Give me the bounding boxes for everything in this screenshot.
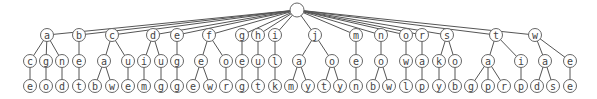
node-label: g (43, 56, 49, 67)
node-label: w (207, 81, 214, 92)
node-label: a (542, 56, 548, 67)
tree-node: t (252, 80, 265, 93)
tree-root-node (290, 3, 304, 17)
tree-node: j (309, 29, 322, 42)
tree-node: r (416, 29, 429, 42)
node-label: a (44, 30, 50, 41)
node-label: e (239, 56, 245, 67)
tree-node: g (155, 80, 168, 93)
node-label: y (436, 81, 442, 92)
tree-node: d (56, 80, 69, 93)
node-label: y (305, 81, 311, 92)
tree-node: e (171, 29, 184, 42)
tree-node: w (400, 55, 413, 68)
tree-node: e (122, 80, 135, 93)
tree-node: o (375, 55, 388, 68)
node-label: e (190, 81, 196, 92)
tree-node: h (252, 29, 265, 42)
tree-node: g (465, 80, 478, 93)
tree-node: g (171, 55, 184, 68)
node-label: g (158, 81, 164, 92)
node-label: k (436, 56, 442, 67)
node-label: a (101, 56, 107, 67)
node-label: a (485, 56, 491, 67)
tree-node: a (98, 55, 111, 68)
tree-node: n (350, 80, 363, 93)
tree-node: g (40, 55, 53, 68)
node-label: i (518, 56, 524, 67)
tree-node: u (252, 55, 265, 68)
tree-node: o (40, 80, 53, 93)
node-label: t (255, 81, 261, 92)
node-label: o (223, 56, 229, 67)
tree-node: e (195, 55, 208, 68)
tree-node: e (73, 55, 86, 68)
node-label: w (532, 30, 539, 41)
tree-node: p (515, 80, 528, 93)
node-label: e (353, 56, 359, 67)
tree-node: t (490, 29, 503, 42)
tree-node: d (531, 80, 544, 93)
node-label: o (329, 56, 335, 67)
tree-node: r (498, 80, 511, 93)
node-label: w (403, 56, 410, 67)
node-label: c (27, 56, 33, 67)
tree-node: i (269, 29, 282, 42)
node-label: l (403, 81, 409, 92)
node-label: t (321, 81, 327, 92)
tree-node: o (220, 55, 233, 68)
tree-node: o (449, 55, 462, 68)
node-label: e (567, 81, 573, 92)
node-label: m (353, 30, 359, 41)
tree-node: w (529, 29, 542, 42)
node-label: a (296, 56, 302, 67)
tree-node: i (515, 55, 528, 68)
tree-node: e (187, 80, 200, 93)
node-label: g (174, 56, 180, 67)
tree-node: p (482, 80, 495, 93)
node-circle (290, 3, 304, 17)
tree-node: e (24, 80, 37, 93)
tree-node: p (416, 80, 429, 93)
node-label: w (109, 81, 116, 92)
tree-node: m (350, 29, 363, 42)
node-label: r (223, 81, 229, 92)
tree-node: a (539, 55, 552, 68)
node-label: g (239, 81, 245, 92)
tree-node: a (416, 55, 429, 68)
node-label: j (312, 30, 318, 41)
tree-node: a (293, 55, 306, 68)
node-label: b (370, 81, 376, 92)
node-label: e (567, 56, 573, 67)
node-label: d (150, 30, 156, 41)
node-label: n (59, 56, 65, 67)
node-label: t (76, 81, 82, 92)
tree-node: l (400, 80, 413, 93)
tree-node: l (269, 55, 282, 68)
node-label: o (452, 56, 458, 67)
tree-node: g (171, 80, 184, 93)
tree-node: c (106, 29, 119, 42)
node-label: s (550, 81, 556, 92)
tree-node: b (449, 80, 462, 93)
node-label: g (239, 30, 245, 41)
tree-node: c (24, 55, 37, 68)
node-label: e (125, 81, 131, 92)
node-label: w (386, 81, 393, 92)
node-label: i (141, 56, 147, 67)
tree-node: f (203, 29, 216, 42)
node-label: e (198, 56, 204, 67)
node-label: n (353, 81, 359, 92)
tree-node: n (56, 55, 69, 68)
node-label: s (444, 30, 450, 41)
tree-node: m (285, 80, 298, 93)
node-label: p (485, 81, 491, 92)
tree-nodes: abcdefghijmnorstwcgneauiugeoeulaoeowakoa… (24, 3, 577, 93)
tree-node: e (236, 55, 249, 68)
tree-node: r (220, 80, 233, 93)
node-label: n (378, 30, 384, 41)
node-label: u (158, 56, 164, 67)
tree-node: u (122, 55, 135, 68)
node-label: p (518, 81, 524, 92)
node-label: m (141, 81, 147, 92)
